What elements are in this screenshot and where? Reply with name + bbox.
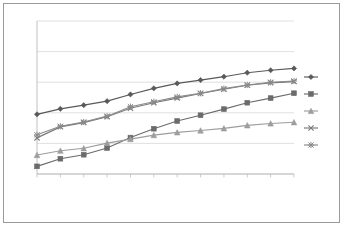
series-layer <box>34 66 297 169</box>
series-d <box>34 79 296 141</box>
x-axis-ticks <box>37 174 294 178</box>
series-a <box>34 66 296 117</box>
gridlines <box>37 21 294 174</box>
series-e <box>34 78 297 138</box>
line-chart <box>4 4 341 224</box>
series-b <box>35 91 297 169</box>
plot-area-border <box>37 21 294 174</box>
legend-marks <box>304 74 318 148</box>
chart-frame <box>3 3 340 223</box>
